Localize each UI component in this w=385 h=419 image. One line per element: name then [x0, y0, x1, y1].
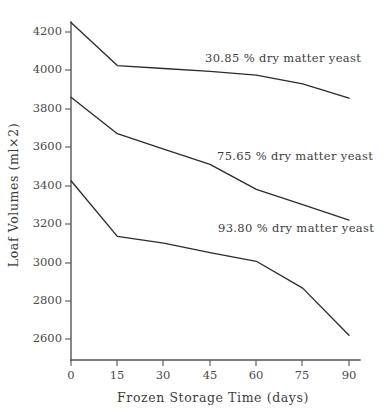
y-tick-label: 3600: [33, 139, 62, 153]
y-tick-label: 4200: [33, 24, 62, 38]
x-axis-title: Frozen Storage Time (days): [117, 390, 309, 405]
x-tick-label: 0: [67, 368, 74, 382]
y-tick-label: 3400: [33, 178, 62, 192]
y-axis-title: Loaf Volumes (ml×2): [6, 123, 21, 267]
x-tick-label: 75: [295, 368, 310, 382]
x-tick-label: 90: [342, 368, 357, 382]
x-tick-label: 15: [110, 368, 125, 382]
series-label-75-65: 75.65 % dry matter yeast: [217, 149, 373, 163]
y-tick-label: 3200: [33, 216, 62, 230]
x-tick-labels: 0 15 30 45 60 75 90: [67, 368, 356, 382]
y-tick-marks: [65, 32, 71, 339]
series-label-93-80: 93.80 % dry matter yeast: [218, 221, 374, 235]
y-tick-label: 3800: [33, 101, 62, 115]
series-line-2: [71, 181, 349, 335]
y-tick-label: 2800: [33, 293, 62, 307]
chart-figure: 4200 4000 3800 3600 3400 3200 3000 2800 …: [0, 0, 385, 419]
x-tick-label: 45: [203, 368, 218, 382]
y-tick-label: 2600: [33, 331, 62, 345]
y-tick-label: 4000: [33, 62, 62, 76]
y-tick-label: 3000: [33, 255, 62, 269]
series-lines: [71, 22, 349, 335]
line-chart-plot: 4200 4000 3800 3600 3400 3200 3000 2800 …: [0, 0, 385, 419]
series-annotations: 30.85 % dry matter yeast 75.65 % dry mat…: [205, 51, 374, 235]
series-label-30-85: 30.85 % dry matter yeast: [205, 51, 361, 65]
x-tick-marks: [71, 360, 349, 366]
x-tick-label: 60: [249, 368, 264, 382]
y-tick-labels: 4200 4000 3800 3600 3400 3200 3000 2800 …: [33, 24, 62, 345]
x-tick-label: 30: [156, 368, 171, 382]
